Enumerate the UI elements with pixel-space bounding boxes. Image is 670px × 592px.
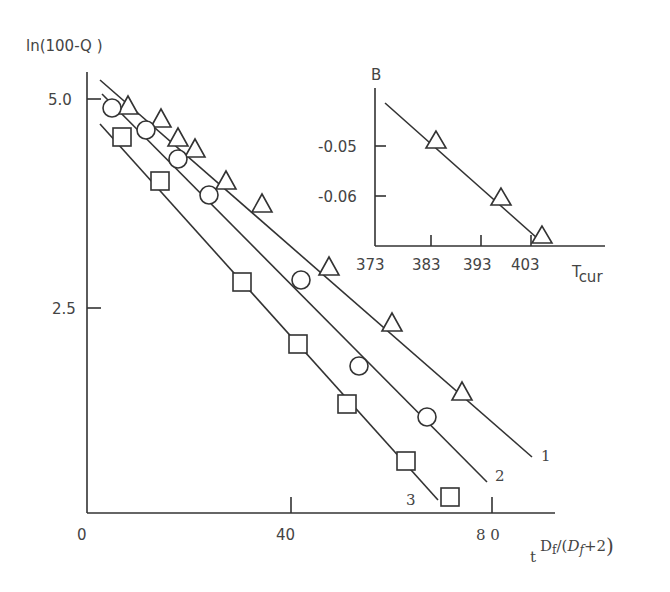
inset-fit-line <box>385 103 537 238</box>
main-y-axis-label: ln(100-Q ) <box>26 37 103 55</box>
triangle-marker <box>491 188 511 205</box>
square-marker <box>441 488 459 506</box>
circle-marker <box>292 271 310 289</box>
circle-marker <box>169 150 187 168</box>
triangle-marker <box>382 313 402 331</box>
triangle-marker <box>216 171 236 189</box>
series-1-triangles <box>118 96 472 400</box>
xtick-label-0: 0 <box>77 526 87 544</box>
inset-triangles <box>426 131 552 243</box>
curve-label-1: 1 <box>541 447 551 465</box>
triangle-marker <box>319 257 339 275</box>
circle-marker <box>418 408 436 426</box>
inset-ytick-label-005: -0.05 <box>318 138 357 156</box>
triangle-marker <box>252 194 272 212</box>
square-marker <box>233 273 251 291</box>
svg-text:t: t <box>530 548 536 566</box>
svg-text:Df/(Df+2): Df/(Df+2) <box>540 534 614 558</box>
main-x-axis-label: t Df/(Df+2) <box>530 534 614 566</box>
triangle-marker <box>151 109 171 127</box>
xtick-label-40: 40 <box>276 526 295 544</box>
triangle-marker <box>452 382 472 400</box>
circle-marker <box>103 99 121 117</box>
inset-ytick-label-006: -0.06 <box>318 188 357 206</box>
triangle-marker <box>168 128 188 146</box>
inset-xtick-label-383: 383 <box>412 256 441 274</box>
curve-label-2: 2 <box>495 467 505 485</box>
inset-y-axis-label: B <box>371 66 381 84</box>
square-marker <box>338 395 356 413</box>
xtick-label-80: 8 0 <box>476 526 500 544</box>
square-marker <box>289 335 307 353</box>
circle-marker <box>137 121 155 139</box>
curve-label-3: 3 <box>406 491 416 509</box>
chart-canvas: ln(100-Q ) 5.0 2.5 0 40 8 0 1 2 3 t Df/(… <box>0 0 670 592</box>
circle-marker <box>200 186 218 204</box>
triangle-marker <box>185 139 205 157</box>
inset-xtick-label-373: 373 <box>356 256 385 274</box>
square-marker <box>151 172 169 190</box>
ytick-label-5: 5.0 <box>48 91 72 109</box>
circle-marker <box>350 357 368 375</box>
square-marker <box>113 128 131 146</box>
ytick-label-2.5: 2.5 <box>52 300 76 318</box>
inset-xtick-label-393: 393 <box>463 256 492 274</box>
inset-x-axis-label: Tcur <box>571 263 603 286</box>
triangle-marker <box>426 131 446 148</box>
inset-chart <box>375 88 605 246</box>
series-3-squares <box>113 128 459 506</box>
square-marker <box>397 452 415 470</box>
inset-xtick-label-403: 403 <box>511 256 540 274</box>
triangle-marker <box>532 226 552 243</box>
